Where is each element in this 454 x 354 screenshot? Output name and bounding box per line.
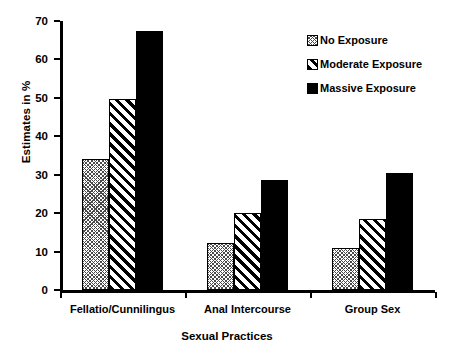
bar-anal-intercourse-moderate-exposure: [234, 213, 261, 290]
y-axis-tick-label: 20: [8, 207, 48, 219]
y-axis-tick: [54, 174, 60, 176]
legend-label: Massive Exposure: [320, 82, 416, 94]
legend-item-massive-exposure: Massive Exposure: [307, 76, 447, 100]
y-axis-tick-label: 60: [8, 53, 48, 65]
x-axis-tick: [185, 292, 187, 298]
x-axis-tick-label-group-sex: Group Sex: [293, 303, 453, 315]
bar-chart-figure: Estimates in % 010203040506070 Fellatio/…: [0, 0, 454, 354]
legend-label: No Exposure: [320, 34, 388, 46]
bar-fellatio-cunnilingus-no-exposure: [82, 159, 109, 290]
y-axis-tick-label: 30: [8, 169, 48, 181]
legend-swatch-icon-no-exposure: [307, 35, 318, 46]
chart-legend: No ExposureModerate ExposureMassive Expo…: [307, 28, 447, 100]
y-axis-tick: [54, 97, 60, 99]
legend-swatch-icon-massive-exposure: [307, 83, 318, 94]
y-axis-tick: [54, 58, 60, 60]
x-axis-tick: [310, 292, 312, 298]
x-axis-tick: [435, 292, 437, 298]
legend-swatch-icon-moderate-exposure: [307, 59, 318, 70]
y-axis-line: [60, 21, 63, 290]
x-axis-tick: [60, 292, 62, 298]
legend-item-moderate-exposure: Moderate Exposure: [307, 52, 447, 76]
bar-group-sex-no-exposure: [332, 248, 359, 290]
bar-fellatio-cunnilingus-moderate-exposure: [109, 99, 136, 290]
bar-group-sex-massive-exposure: [386, 173, 413, 290]
legend-label: Moderate Exposure: [320, 58, 422, 70]
y-axis-tick-label: 10: [8, 246, 48, 258]
bar-anal-intercourse-massive-exposure: [261, 180, 288, 290]
y-axis-tick-label: 40: [8, 130, 48, 142]
y-axis-tick-label: 70: [8, 15, 48, 27]
bar-anal-intercourse-no-exposure: [207, 243, 234, 290]
y-axis-tick: [54, 20, 60, 22]
y-axis-tick: [54, 135, 60, 137]
y-axis-tick: [54, 212, 60, 214]
legend-item-no-exposure: No Exposure: [307, 28, 447, 52]
y-axis-tick: [54, 289, 60, 291]
bar-fellatio-cunnilingus-massive-exposure: [136, 31, 163, 290]
y-axis-tick-label: 50: [8, 92, 48, 104]
bar-group-sex-moderate-exposure: [359, 219, 386, 290]
x-axis-title: Sexual Practices: [0, 330, 454, 342]
y-axis-tick: [54, 251, 60, 253]
y-axis-tick-label: 0: [8, 284, 48, 296]
x-axis-line: [60, 290, 435, 293]
